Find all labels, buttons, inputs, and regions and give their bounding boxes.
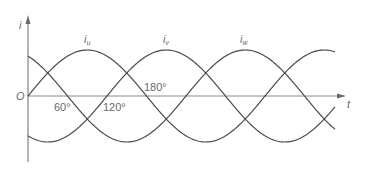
angle-mark-120: 120° [103, 101, 126, 113]
y-axis-label: i [19, 19, 22, 31]
svg-text:iv: iv [163, 33, 169, 46]
angle-mark-60: 60° [54, 101, 71, 113]
series-label-i-u: iu [84, 33, 90, 46]
x-axis-label: t [347, 98, 351, 110]
three-phase-waveform-diagram: i t O iu iv iw 60° 120° 180° [0, 0, 372, 171]
svg-text:iu: iu [84, 33, 90, 46]
series-label-i-v: iv [163, 33, 169, 46]
x-axis-arrow-icon [337, 94, 346, 99]
series-label-i-w: iw [240, 33, 248, 46]
y-axis-arrow-icon [26, 15, 31, 24]
svg-text:iw: iw [240, 33, 248, 46]
origin-label: O [16, 90, 25, 102]
angle-mark-180: 180° [144, 81, 167, 93]
